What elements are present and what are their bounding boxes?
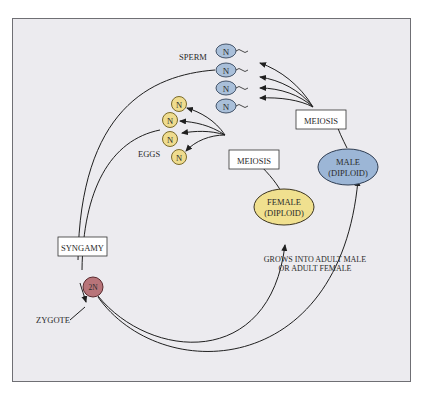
- egg-cell: N: [172, 97, 187, 112]
- svg-text:MEIOSIS: MEIOSIS: [304, 116, 338, 126]
- zygote: 2N: [83, 277, 103, 297]
- female-diploid: FEMALE (DIPLOID): [254, 189, 314, 225]
- svg-text:MALE: MALE: [336, 157, 360, 167]
- sperm-label: SPERM: [179, 52, 207, 62]
- zygote-label: ZYGOTE: [36, 315, 70, 325]
- egg-cell: N: [163, 132, 178, 147]
- eggs-label: EGGS: [138, 149, 160, 159]
- life-cycle-diagram: N N N N SPERM N N N N EGGS MEIOSIS: [0, 0, 423, 398]
- svg-text:N: N: [223, 102, 230, 112]
- svg-text:N: N: [176, 100, 182, 110]
- svg-text:FEMALE: FEMALE: [267, 197, 301, 207]
- svg-text:N: N: [167, 116, 173, 126]
- svg-text:N: N: [223, 84, 230, 94]
- svg-text:N: N: [176, 153, 182, 163]
- egg-cell: N: [172, 150, 187, 165]
- svg-text:N: N: [167, 135, 173, 145]
- svg-text:(DIPLOID): (DIPLOID): [328, 168, 368, 178]
- male-diploid: MALE (DIPLOID): [318, 149, 378, 185]
- meiosis-female-box: MEIOSIS: [229, 150, 279, 169]
- svg-text:N: N: [223, 66, 230, 76]
- egg-cell: N: [163, 113, 178, 128]
- svg-text:MEIOSIS: MEIOSIS: [237, 156, 271, 166]
- svg-text:SYNGAMY: SYNGAMY: [61, 243, 104, 253]
- meiosis-male-box: MEIOSIS: [296, 110, 346, 129]
- diagram-panel: [13, 19, 411, 382]
- syngamy-box: SYNGAMY: [58, 237, 107, 256]
- svg-text:2N: 2N: [88, 283, 98, 292]
- grows-label-line2: OR ADULT FEMALE: [279, 264, 352, 273]
- svg-text:N: N: [223, 47, 230, 57]
- grows-label-line1: GROWS INTO ADULT MALE: [264, 255, 366, 264]
- svg-text:(DIPLOID): (DIPLOID): [264, 208, 304, 218]
